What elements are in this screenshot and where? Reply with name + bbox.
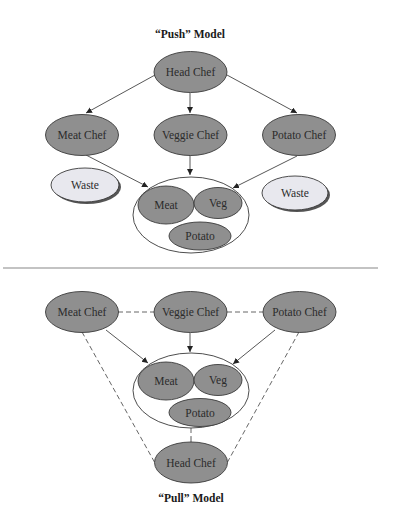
- push-waste-left-node: Waste: [51, 168, 121, 204]
- pull-pot-meat-label: Meat: [154, 375, 178, 387]
- edge-head-to-meat: [86, 75, 155, 113]
- push-veggie-chef-label: Veggie Chef: [162, 129, 219, 142]
- pull-model-title: “Pull” Model: [158, 492, 224, 504]
- edge-head-to-potato: [227, 75, 297, 113]
- push-waste-left-label: Waste: [71, 179, 99, 191]
- pull-potato-chef-node: Potato Chef: [263, 292, 336, 333]
- push-meat-chef-node: Meat Chef: [46, 115, 119, 156]
- pull-model: Meat Chef Veggie Chef Potato Chef Meat V…: [46, 292, 337, 505]
- pull-meat-chef-node: Meat Chef: [46, 292, 119, 333]
- pull-pot-veg-label: Veg: [209, 374, 227, 387]
- push-pot-veg-label: Veg: [209, 197, 227, 210]
- pull-veggie-chef-label: Veggie Chef: [162, 306, 219, 319]
- push-model: “Push” Model Head Chef Meat Chef Veggie …: [46, 28, 336, 253]
- push-head-chef-label: Head Chef: [166, 66, 216, 78]
- pull-potato-chef-label: Potato Chef: [272, 306, 327, 318]
- pull-pot-container: Meat Veg Potato: [133, 353, 249, 428]
- push-potato-chef-node: Potato Chef: [263, 115, 336, 156]
- push-veggie-chef-node: Veggie Chef: [154, 115, 227, 156]
- push-potato-chef-label: Potato Chef: [272, 129, 327, 141]
- push-waste-right-node: Waste: [262, 176, 330, 212]
- pull-head-chef-label: Head Chef: [166, 457, 216, 469]
- push-meat-chef-label: Meat Chef: [58, 129, 107, 141]
- pull-pot-potato-label: Potato: [185, 407, 215, 419]
- push-waste-right-label: Waste: [281, 187, 309, 199]
- edge-potatochef-to-pot-pull: [233, 330, 275, 364]
- push-head-chef-node: Head Chef: [154, 52, 227, 93]
- pull-veggie-chef-node: Veggie Chef: [154, 292, 227, 333]
- pull-head-chef-node: Head Chef: [155, 442, 228, 483]
- push-pot-meat-label: Meat: [154, 199, 178, 211]
- edge-meatchef-to-pot-pull: [106, 330, 148, 363]
- push-pot-potato-label: Potato: [185, 230, 215, 242]
- push-model-title: “Push” Model: [155, 28, 225, 40]
- diagram-canvas: “Push” Model Head Chef Meat Chef Veggie …: [0, 0, 396, 526]
- push-pot-container: Meat Veg Potato: [133, 177, 249, 253]
- pull-meat-chef-label: Meat Chef: [58, 306, 107, 318]
